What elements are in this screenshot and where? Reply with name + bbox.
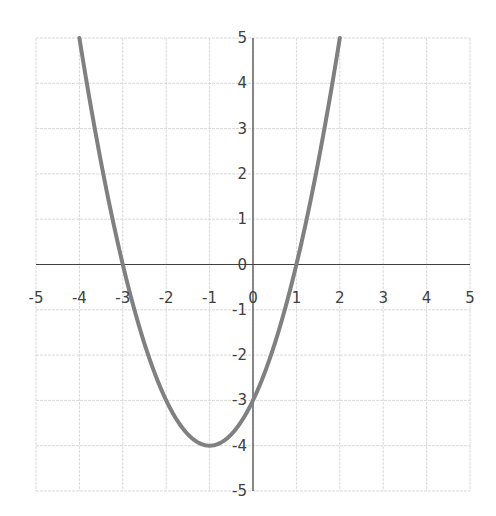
x-tick-label: -3 [115, 289, 130, 307]
x-tick-label: 5 [465, 289, 475, 307]
axes [36, 38, 470, 491]
x-tick-label: 1 [292, 289, 302, 307]
x-tick-label: -4 [72, 289, 87, 307]
x-tick-label: 2 [335, 289, 345, 307]
y-tick-label: -3 [232, 391, 247, 409]
x-tick-label: 4 [422, 289, 432, 307]
y-tick-label: 2 [237, 165, 247, 183]
parabola-chart: -5-4-3-2-1012345 543210-1-2-3-4-5 [0, 0, 496, 516]
y-tick-label: 3 [237, 120, 247, 138]
y-tick-label: -1 [232, 301, 247, 319]
x-tick-label: 3 [378, 289, 388, 307]
y-tick-label: -5 [232, 482, 247, 500]
x-tick-label: -2 [159, 289, 174, 307]
x-axis-tick-labels: -5-4-3-2-1012345 [29, 289, 475, 307]
x-tick-label: 0 [248, 289, 258, 307]
y-tick-label: 5 [237, 29, 247, 47]
y-tick-label: -2 [232, 346, 247, 364]
x-tick-label: -5 [29, 289, 44, 307]
y-tick-label: 1 [237, 210, 247, 228]
y-tick-label: -4 [232, 437, 247, 455]
x-tick-label: -1 [202, 289, 217, 307]
y-tick-label: 0 [237, 256, 247, 274]
y-tick-label: 4 [237, 74, 247, 92]
